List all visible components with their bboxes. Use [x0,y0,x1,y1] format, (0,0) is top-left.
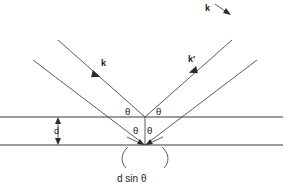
theta-upper-left-label: θ [125,106,130,117]
scattered-ray-upper-arrowhead [189,66,198,73]
diagram-canvas: k k' k θ θ θ θ d d sin θ [0,0,288,187]
theta-lower-right-label: θ [147,125,152,136]
theta-lower-left-label: θ [133,125,138,136]
incident-ray-upper [58,40,145,117]
corner-wavevector-arrowhead [223,8,231,15]
incident-wavevector-label: k [101,58,107,68]
path-difference-caption: d sin θ [117,173,147,184]
path-difference-brace-right [162,147,168,168]
spacing-arrow-down [55,138,61,145]
bragg-diffraction-figure: k k' k θ θ θ θ d d sin θ [0,0,288,187]
spacing-label: d [54,126,59,136]
scattered-wavevector-label: k' [188,54,195,64]
spacing-arrow-up [55,117,61,124]
corner-wavevector-label: k [205,3,211,13]
incident-ray-upper-arrowhead [91,70,100,77]
theta-upper-right-label: θ [156,106,161,117]
path-difference-brace-left [122,147,128,168]
